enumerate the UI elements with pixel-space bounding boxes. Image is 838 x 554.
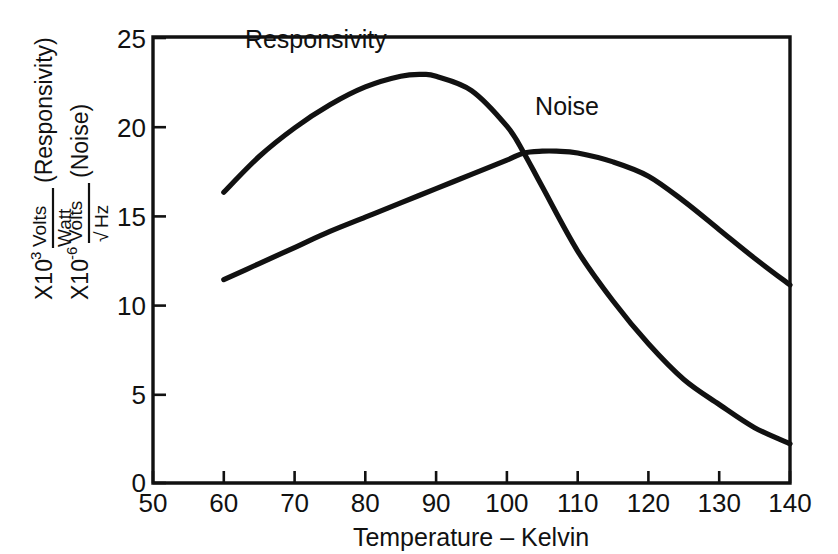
x-axis-ticks [153,471,790,483]
y-axis-denominator-2: Hz [91,205,112,228]
x-tick-label: 90 [422,488,451,518]
x-tick-label: 110 [557,488,598,518]
y-axis-paren-1: (Responsivity) [31,37,57,183]
responsivity-series-label: Responsivity [245,25,387,53]
y-tick-label: 10 [117,291,146,321]
y-axis-paren-2: (Noise) [67,104,93,178]
x-axis-tick-labels: 50 60 70 80 90 100 110 120 130 140 [139,488,812,518]
y-axis-numerator-1: Volts [29,206,50,247]
noise-series-label: Noise [535,92,599,120]
x-axis-title: Temperature – Kelvin [353,523,589,551]
y-axis-exponent-1: 3 [27,252,44,260]
y-axis-radical-2: √ [91,231,112,242]
responsivity-noise-chart: 0 5 10 15 20 25 50 60 70 80 90 1 [0,0,838,554]
y-axis-tick-labels: 0 5 10 15 20 25 [117,24,146,498]
x-tick-label: 70 [280,488,309,518]
x-tick-label: 50 [139,488,168,518]
plot-frame [153,37,790,483]
x-tick-label: 140 [768,488,811,518]
y-axis-prefix-1: X10 [31,259,57,300]
figure-container: 0 5 10 15 20 25 50 60 70 80 90 1 [0,0,838,554]
y-tick-label: 20 [117,113,146,143]
y-axis-prefix-2: X10 [67,259,93,300]
y-axis-title-noise: X10 -6 Volts √ Hz (Noise) [63,104,112,300]
responsivity-curve [224,74,790,443]
y-axis-exponent-2: -6 [63,247,80,260]
noise-curve [224,151,790,285]
x-tick-label: 80 [351,488,380,518]
x-tick-label: 60 [209,488,238,518]
x-tick-label: 120 [627,488,670,518]
x-tick-label: 130 [698,488,741,518]
y-tick-label: 15 [117,202,146,232]
x-tick-label: 100 [485,488,528,518]
y-tick-label: 5 [132,380,146,410]
y-axis-ticks [153,38,166,483]
y-tick-label: 25 [117,24,146,54]
y-axis-numerator-2: Volts [65,201,86,242]
